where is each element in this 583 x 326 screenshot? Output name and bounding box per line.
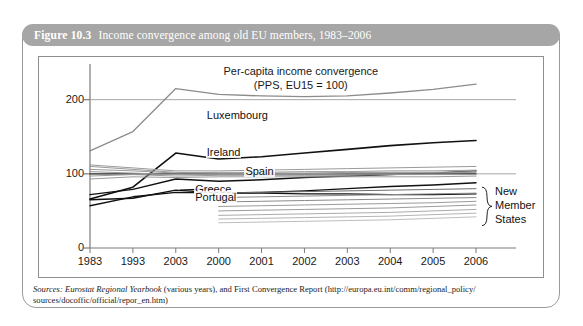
new-member-states-label: New Member States xyxy=(495,184,535,226)
annotation-ireland: Ireland xyxy=(206,146,242,158)
y-tick-label-0: 0 xyxy=(42,241,84,253)
annotation-luxembourg: Luxembourg xyxy=(206,109,269,121)
chart-title-line2: (PPS, EU15 = 100) xyxy=(206,78,396,92)
y-tick-label-100: 100 xyxy=(42,167,84,179)
x-tick-label-5: 2002 xyxy=(288,255,320,267)
source-rest: (various years), and First Convergence R… xyxy=(164,284,476,294)
source-line2: sources/docoffic/official/repor_en.htm) xyxy=(33,295,168,305)
x-tick-label-8: 2005 xyxy=(417,255,449,267)
source-prefix: Sources: xyxy=(33,284,63,294)
y-tick-label-200: 200 xyxy=(42,93,84,105)
annotation-portugal: Portugal xyxy=(194,191,237,203)
x-tick-label-9: 2006 xyxy=(460,255,492,267)
chart-title-line1: Per-capita income convergence xyxy=(206,64,396,78)
figure-caption: Income convergence among old EU members,… xyxy=(99,29,372,41)
x-tick-label-0: 1983 xyxy=(74,255,106,267)
figure-number: Figure 10.3 xyxy=(34,29,92,41)
nms-line-2: Member xyxy=(495,198,535,212)
x-tick-label-1: 1993 xyxy=(117,255,149,267)
x-tick-label-7: 2004 xyxy=(374,255,406,267)
source-italic-title: Eurostat Regional Yearbook xyxy=(65,284,162,294)
annotation-spain: Spain xyxy=(244,165,274,177)
x-tick-label-6: 2003 xyxy=(331,255,363,267)
x-tick-label-2: 2003 xyxy=(160,255,192,267)
nms-line-1: New xyxy=(495,184,535,198)
source-note: Sources: Eurostat Regional Yearbook (var… xyxy=(33,284,553,307)
figure-header-bar: Figure 10.3 Income convergence among old… xyxy=(22,24,560,46)
figure-container: Figure 10.3 Income convergence among old… xyxy=(0,0,583,326)
chart-title: Per-capita income convergence (PPS, EU15… xyxy=(206,64,396,92)
x-tick-label-3: 2000 xyxy=(203,255,235,267)
x-tick-label-4: 2001 xyxy=(246,255,278,267)
nms-line-3: States xyxy=(495,212,535,226)
